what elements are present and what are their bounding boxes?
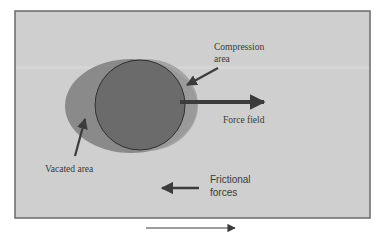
compression-area-label-line2: area	[214, 54, 231, 64]
frictional-forces-label-line1: Frictional	[210, 174, 251, 185]
frictional-forces-label-line2: forces	[210, 187, 237, 198]
panel-highlight-band	[16, 66, 369, 69]
compression-area-label-line1: Compression	[214, 42, 264, 52]
particle-circle	[95, 60, 185, 150]
force-field-label: Force field	[223, 115, 265, 125]
vacated-area-label: Vacated area	[45, 164, 94, 174]
force-diagram: Compression area Force field Vacated are…	[0, 0, 385, 240]
